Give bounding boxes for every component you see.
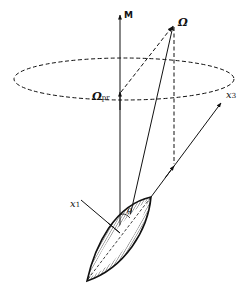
label-omega-pr-main: Ω bbox=[92, 90, 102, 103]
x3-mid-arrow bbox=[165, 166, 174, 178]
label-x3-sub: 3 bbox=[232, 92, 236, 100]
precession-ellipse bbox=[14, 58, 234, 100]
label-omega-pr-sub: pr bbox=[102, 94, 110, 102]
label-x3: x3 bbox=[226, 90, 236, 100]
label-theta: θ bbox=[127, 208, 132, 216]
label-x1: x1 bbox=[70, 199, 80, 209]
label-x1-sub: 1 bbox=[76, 201, 80, 209]
omega-vector bbox=[128, 26, 173, 225]
label-omega-pr: Ωpr bbox=[92, 91, 110, 102]
x3-axis bbox=[151, 103, 221, 197]
label-M: M bbox=[124, 11, 133, 20]
label-omega: Ω bbox=[178, 17, 188, 28]
diagram-canvas bbox=[0, 0, 249, 295]
